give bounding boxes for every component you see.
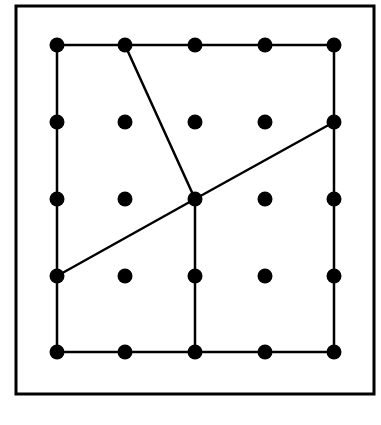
grid-dot (50, 345, 65, 360)
grid-dot (50, 38, 65, 53)
geoboard-diagram (0, 0, 381, 425)
grid-dot (258, 38, 273, 53)
grid-dot (188, 269, 203, 284)
grid-dot (118, 345, 133, 360)
grid-dot (188, 192, 203, 207)
segment-center-to-right (195, 122, 334, 199)
grid-dot (327, 38, 342, 53)
grid-dot (327, 269, 342, 284)
grid-dot (188, 345, 203, 360)
grid-dot (118, 38, 133, 53)
grid-dot (258, 269, 273, 284)
grid-dot (258, 192, 273, 207)
segment-top-to-center (125, 45, 195, 199)
segment-left-to-center (57, 199, 195, 276)
grid-dot (188, 115, 203, 130)
grid-dot (118, 192, 133, 207)
grid-dot (50, 192, 65, 207)
grid-dot (327, 115, 342, 130)
grid-dot (258, 345, 273, 360)
grid-dot (327, 345, 342, 360)
grid-dot (327, 192, 342, 207)
grid-dot (118, 115, 133, 130)
grid-dot (50, 269, 65, 284)
grid-dot (258, 115, 273, 130)
grid-dot (118, 269, 133, 284)
grid-dot (188, 38, 203, 53)
grid-dot (50, 115, 65, 130)
